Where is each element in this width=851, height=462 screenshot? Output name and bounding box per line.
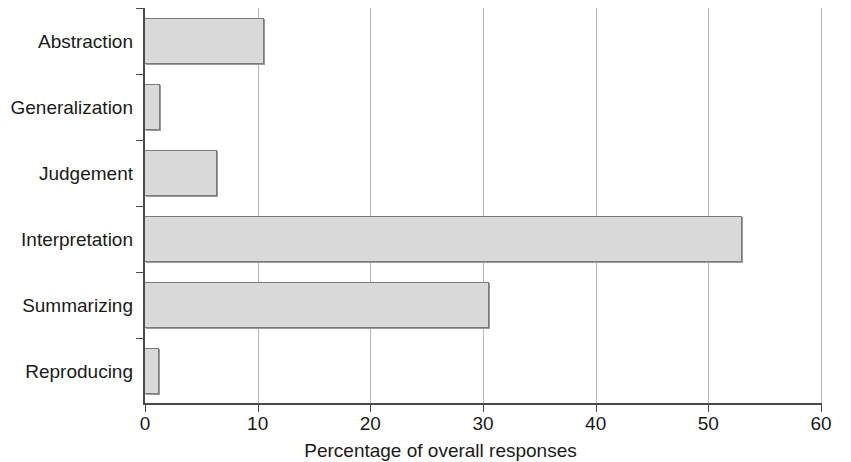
gridline-20 xyxy=(370,8,371,404)
gridline-60 xyxy=(821,8,822,404)
category-label: Abstraction xyxy=(0,32,133,51)
gridline-40 xyxy=(596,8,597,404)
bar xyxy=(145,282,489,328)
category-label: Generalization xyxy=(0,98,133,117)
bar-chart: AbstractionGeneralizationJudgementInterp… xyxy=(0,0,851,462)
bar xyxy=(145,84,160,130)
gridline-10 xyxy=(258,8,259,404)
x-axis-title-text: Percentage of overall responses xyxy=(304,441,577,460)
value-axis-tick-label: 20 xyxy=(360,414,381,433)
value-axis-tick-label: 60 xyxy=(810,414,831,433)
value-axis-tick-label: 50 xyxy=(698,414,719,433)
bar xyxy=(145,150,217,196)
value-axis-tick-label: 30 xyxy=(472,414,493,433)
category-label: Summarizing xyxy=(0,296,133,315)
bar xyxy=(145,216,742,262)
category-axis-tick xyxy=(136,140,144,141)
bar xyxy=(145,18,264,64)
category-label: Judgement xyxy=(0,164,133,183)
value-axis-tick xyxy=(370,405,371,412)
value-axis-tick xyxy=(708,405,709,412)
gridline-30 xyxy=(483,8,484,404)
value-axis-tick-label: 10 xyxy=(247,414,268,433)
category-axis-tick xyxy=(136,272,144,273)
value-axis-tick xyxy=(145,405,146,412)
category-axis-tick xyxy=(136,8,144,9)
category-axis-tick xyxy=(136,338,144,339)
value-axis-tick xyxy=(596,405,597,412)
category-axis-tick xyxy=(136,206,144,207)
category-axis-tick xyxy=(136,74,144,75)
x-axis-title: Percentage of overall responses xyxy=(0,441,851,460)
value-axis-tick xyxy=(258,405,259,412)
category-label: Reproducing xyxy=(0,362,133,381)
value-axis-tick xyxy=(483,405,484,412)
plot-area xyxy=(145,8,821,404)
value-axis-tick-label: 0 xyxy=(140,414,151,433)
category-label: Interpretation xyxy=(0,230,133,249)
bar xyxy=(145,348,159,394)
value-axis-tick-label: 40 xyxy=(585,414,606,433)
gridline-50 xyxy=(708,8,709,404)
value-axis-tick xyxy=(821,405,822,412)
